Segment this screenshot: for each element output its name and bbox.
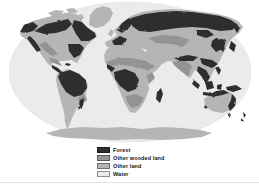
legend-row-other-wooded-land: Other wooded land — [97, 154, 165, 162]
other-land-swatch — [97, 163, 110, 169]
world-map — [0, 0, 259, 146]
bottom-hairline — [0, 182, 259, 183]
forest-cover-world-map-figure: Forest Other wooded land Other land Wate… — [0, 0, 259, 185]
new-zealand-north-forest — [243, 112, 246, 118]
forest-label: Forest — [113, 146, 130, 154]
new-zealand-south-forest — [241, 118, 244, 123]
water-swatch — [97, 171, 110, 177]
other-land-label: Other land — [113, 162, 142, 170]
map-legend: Forest Other wooded land Other land Wate… — [97, 146, 165, 178]
legend-row-other-land: Other land — [97, 162, 165, 170]
antarctica — [46, 127, 212, 140]
legend-row-water: Water — [97, 170, 165, 178]
water-label: Water — [113, 170, 129, 178]
other-wooded-land-swatch — [97, 155, 110, 161]
other-wooded-land-label: Other wooded land — [113, 154, 165, 162]
forest-swatch — [97, 147, 110, 153]
legend-row-forest: Forest — [97, 146, 165, 154]
tasmania-forest — [228, 114, 231, 118]
